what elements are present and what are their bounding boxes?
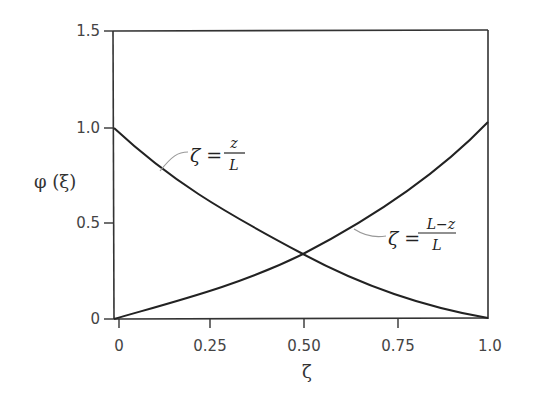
annotation-leader-2	[354, 229, 386, 237]
annotation-denominator: L	[431, 237, 441, 253]
y-axis-tick-labels: 1.5 1.0 0.5 0	[76, 22, 100, 328]
annotation-l-minus-z-over-l: ζ = L−z L	[388, 216, 456, 253]
annotation-numerator: L−z	[426, 216, 456, 232]
annotation-numerator: z	[229, 135, 238, 151]
x-axis-label: ζ	[302, 361, 312, 382]
annotation-lhs: ζ =	[190, 144, 222, 166]
chart: 1.5 1.0 0.5 0 0 0.25 0.50 0.75 1.0 ζ φ (…	[0, 0, 536, 399]
y-tick-label: 1.5	[76, 22, 100, 40]
x-tick-label: 1.0	[478, 337, 502, 355]
annotation-denominator: L	[228, 157, 238, 173]
annotation-lhs: ζ =	[388, 227, 420, 249]
y-tick-label: 0.5	[76, 214, 100, 232]
y-tick-label: 0	[90, 310, 100, 328]
y-tick-label: 1.0	[76, 119, 100, 137]
x-tick-label: 0	[114, 337, 124, 355]
x-axis-tick-labels: 0 0.25 0.50 0.75 1.0	[114, 337, 502, 355]
annotation-z-over-l: ζ = z L	[190, 135, 245, 173]
annotation-leader-1	[160, 152, 188, 171]
y-axis-label: φ (ξ)	[34, 171, 76, 192]
x-tick-label: 0.25	[193, 337, 226, 355]
x-tick-label: 0.50	[287, 337, 320, 355]
x-tick-label: 0.75	[381, 337, 414, 355]
